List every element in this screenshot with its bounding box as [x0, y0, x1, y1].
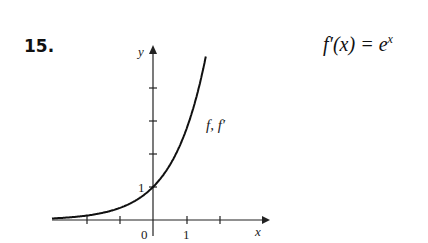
y-tick-1-label: 1 [138, 180, 145, 195]
exp-curve [52, 57, 206, 219]
origin-label: 0 [141, 227, 148, 242]
graph: y x 0 1 1 f, f′ [0, 0, 428, 243]
curve-label: f, f′ [206, 117, 226, 133]
y-axis-arrow [149, 45, 157, 54]
x-axis-label: x [254, 224, 261, 239]
x-tick-1-label: 1 [183, 227, 190, 242]
x-axis-arrow [262, 216, 270, 224]
y-axis-label: y [136, 44, 144, 59]
